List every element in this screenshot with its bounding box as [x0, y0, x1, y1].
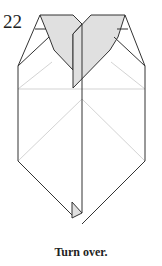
origami-fold-diagram	[0, 0, 162, 266]
caption: Turn over.	[0, 245, 162, 260]
outline	[18, 15, 145, 224]
